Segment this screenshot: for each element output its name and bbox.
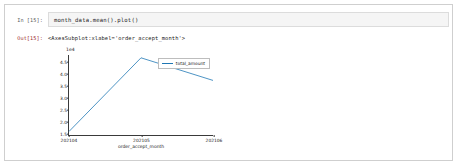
y-axis-tick-mark [67,121,69,122]
y-axis-tick-label: 1.5 [60,131,67,136]
plot-area: total_amount 1.52.02.53.03.54.04.5202104… [68,55,213,136]
x-axis-tick-label: 202104 [61,138,78,143]
y-axis-tick-mark [67,62,69,63]
code-text: month_data.mean().plot() [54,17,138,23]
y-axis-tick-label: 3.5 [60,83,67,88]
x-axis-minor-tick-mark [87,135,88,136]
output-repr-text: <AxesSubplot:xlabel='order_accept_month'… [48,35,185,41]
matplotlib-figure: 1e4 total_amount 1.52.02.53.03.54.04.520… [49,46,225,158]
x-axis-minor-tick-mark [159,135,160,136]
y-axis-tick-mark [67,133,69,134]
x-axis-minor-tick-mark [105,135,106,136]
input-prompt-label: In [15]: [5,17,48,23]
x-axis-tick-label: 202105 [133,138,150,143]
legend-line-swatch [162,63,173,64]
x-axis-minor-tick-mark [177,135,178,136]
x-axis-minor-tick-mark [196,135,197,136]
legend-label-total-amount: total_amount [176,61,205,66]
y-axis-tick-label: 4.5 [60,60,67,65]
output-text-row: Out[15]: <AxesSubplot:xlabel='order_acce… [5,32,452,43]
x-axis-label: order_accept_month [118,144,164,149]
y-axis-tick-label: 4.0 [60,72,67,77]
y-axis-tick-label: 3.0 [60,95,67,100]
input-cell-row: In [15]: month_data.mean().plot() [5,12,452,27]
y-axis-tick-label: 2.0 [60,119,67,124]
y-axis-tick-mark [67,109,69,110]
x-axis-minor-tick-mark [123,135,124,136]
y-axis-tick-label: 2.5 [60,107,67,112]
notebook-cell: In [15]: month_data.mean().plot() Out[15… [4,4,453,161]
y-axis-offset-label: 1e4 [66,47,75,52]
code-editor[interactable]: month_data.mean().plot() [48,12,449,27]
x-axis-tick-label: 202106 [206,138,223,143]
y-axis-tick-mark [67,74,69,75]
output-prompt-label: Out[15]: [5,35,48,41]
y-axis-tick-mark [67,98,69,99]
chart-legend: total_amount [158,58,210,69]
y-axis-tick-mark [67,86,69,87]
